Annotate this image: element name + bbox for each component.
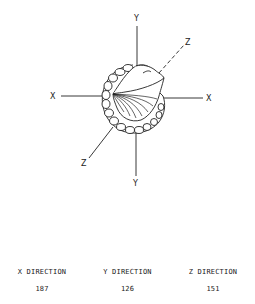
- z-direction-header: Z DIRECTION: [173, 268, 253, 276]
- x-direction-value: 187: [2, 285, 82, 293]
- y-bottom-label: Y: [132, 179, 138, 188]
- shell-icon: [102, 65, 165, 134]
- x-left-label: X: [50, 92, 56, 101]
- z-upper-label: Z: [185, 38, 191, 47]
- dimension-table: X DIRECTION Y DIRECTION Z DIRECTION 187 …: [0, 268, 255, 293]
- shell-axes-diagram: Y Y X X Z Z: [0, 0, 255, 200]
- z-lower-label: Z: [81, 159, 87, 168]
- table-value-row: 187 126 151: [0, 285, 255, 293]
- z-axis-upper-dashed: [159, 45, 184, 73]
- x-right-label: X: [206, 94, 212, 103]
- x-direction-header: X DIRECTION: [2, 268, 82, 276]
- z-direction-value: 151: [173, 285, 253, 293]
- table-header-row: X DIRECTION Y DIRECTION Z DIRECTION: [0, 268, 255, 276]
- z-axis-lower: [89, 127, 113, 158]
- y-direction-value: 126: [88, 285, 168, 293]
- y-top-label: Y: [133, 14, 139, 23]
- y-direction-header: Y DIRECTION: [88, 268, 168, 276]
